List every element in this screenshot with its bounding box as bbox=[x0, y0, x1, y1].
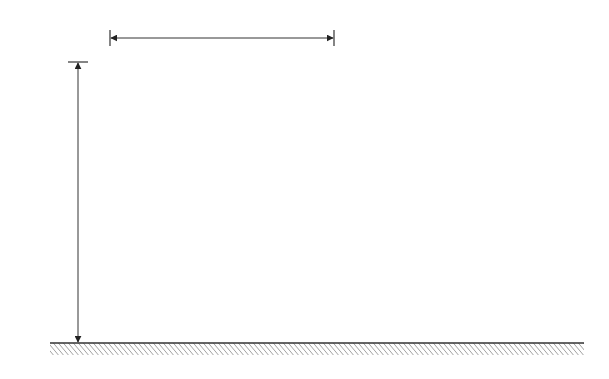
height-dimension bbox=[68, 62, 88, 342]
reinforced-wall-diagram bbox=[0, 0, 609, 379]
ground bbox=[50, 343, 584, 355]
length-dimension bbox=[110, 30, 334, 46]
